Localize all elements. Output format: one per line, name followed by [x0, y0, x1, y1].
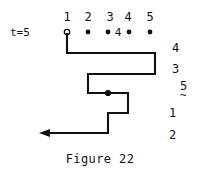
- time-label: t=5: [10, 26, 30, 39]
- figure-caption: Figure 22: [66, 152, 135, 166]
- node-dot-4: [127, 30, 132, 35]
- arrow-head-left-icon: [39, 129, 50, 137]
- column-label-2: 2: [84, 10, 91, 24]
- node-dot-2: [86, 30, 91, 35]
- row-label-4: 1: [169, 106, 176, 120]
- row-label-5: 2: [169, 128, 176, 142]
- node-dot-5: [148, 30, 153, 35]
- row-label-1: 4: [172, 41, 179, 55]
- column-label-3: 3: [106, 10, 113, 24]
- column-label-5: 5: [146, 10, 153, 24]
- figure-diagram: t=5 1 2 3 4 5 4 4 3 5 ~ 1 2 Figure 22: [0, 0, 201, 174]
- row-label-2: 3: [172, 62, 179, 76]
- tilde-mark: ~: [180, 89, 187, 102]
- figure-container: t=5 1 2 3 4 5 4 4 3 5 ~ 1 2 Figure 22: [0, 0, 201, 174]
- path-midpoint-dot: [105, 90, 111, 96]
- serpentine-path: [47, 33, 155, 133]
- column-label-4: 4: [124, 10, 131, 24]
- node-dot-3: [106, 30, 111, 35]
- inline-label-4: 4: [115, 26, 122, 39]
- column-label-1: 1: [63, 10, 70, 24]
